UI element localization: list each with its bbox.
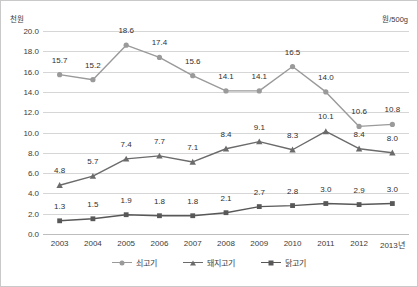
data-point-marker [390, 122, 395, 127]
legend-item-돼지고기[interactable]: 돼지고기 [183, 257, 235, 268]
y-axis-tick: 2.0 [9, 209, 39, 218]
x-axis-tick: 2006 [151, 239, 169, 248]
data-point-marker [224, 210, 229, 215]
data-point-marker [323, 89, 328, 94]
x-axis-tick: 2008 [217, 239, 235, 248]
y-axis-tick: 4.0 [9, 189, 39, 198]
y-axis-tick: 18.0 [9, 47, 39, 56]
data-point-marker [290, 64, 295, 69]
data-point-marker [190, 73, 195, 78]
legend-marker-icon [112, 258, 132, 267]
data-point-marker [157, 213, 162, 218]
y-axis-unit-label: 천원 [10, 13, 24, 24]
legend: 쇠고기돼지고기닭고기 [1, 257, 417, 268]
y-axis-tick: 0.0 [9, 230, 39, 239]
data-point-marker [323, 201, 328, 206]
data-point-marker [91, 216, 96, 221]
gridline [43, 234, 409, 235]
legend-label: 돼지고기 [207, 257, 235, 268]
y-axis-tick: 10.0 [9, 128, 39, 137]
data-point-marker [223, 88, 228, 93]
y-axis-tick: 14.0 [9, 87, 39, 96]
x-axis-tick: 2011 [317, 239, 334, 248]
data-point-marker [124, 212, 129, 217]
series-line-돼지고기 [60, 131, 393, 185]
data-point-marker [390, 201, 395, 206]
data-point-marker [157, 55, 162, 60]
y-axis-tick: 8.0 [9, 148, 39, 157]
legend-item-쇠고기[interactable]: 쇠고기 [112, 257, 157, 268]
x-axis-tick: 2004 [84, 239, 102, 248]
x-axis-tick-labels: 2003200420052006200720082009201020112012… [43, 237, 409, 253]
y-axis-tick: 20.0 [9, 27, 39, 36]
x-axis-tick: 2010 [284, 239, 302, 248]
x-axis-tick: 2013년 [380, 239, 405, 250]
x-axis-tick: 2009 [250, 239, 268, 248]
x-axis-tick: 2005 [117, 239, 135, 248]
legend-marker-icon [183, 258, 203, 267]
y-axis-tick: 16.0 [9, 67, 39, 76]
data-point-marker [124, 43, 129, 48]
legend-label: 닭고기 [285, 257, 306, 268]
data-point-marker [257, 88, 262, 93]
data-point-marker [190, 213, 195, 218]
series-lines [43, 31, 409, 234]
data-point-marker [57, 72, 62, 77]
legend-item-닭고기[interactable]: 닭고기 [261, 257, 306, 268]
line-chart-meat-prices: 천원 원/500g 15.715.218.617.415.614.114.116… [0, 0, 418, 287]
data-point-marker [356, 124, 361, 129]
data-point-marker [357, 202, 362, 207]
data-point-marker [323, 128, 329, 134]
y-axis-tick: 6.0 [9, 169, 39, 178]
chart-unit-note: 원/500g [382, 13, 408, 24]
legend-label: 쇠고기 [136, 257, 157, 268]
x-axis-tick: 2003 [51, 239, 69, 248]
legend-marker-icon [261, 258, 281, 267]
data-point-marker [90, 77, 95, 82]
data-point-marker [290, 203, 295, 208]
series-line-쇠고기 [60, 45, 393, 126]
plot-area: 15.715.218.617.415.614.114.116.514.010.6… [43, 31, 409, 234]
y-axis-tick: 12.0 [9, 108, 39, 117]
x-axis-tick: 2007 [184, 239, 202, 248]
data-point-marker [57, 218, 62, 223]
data-point-marker [256, 138, 262, 144]
x-axis-tick: 2012 [350, 239, 368, 248]
data-point-marker [90, 173, 96, 179]
data-point-marker [257, 204, 262, 209]
